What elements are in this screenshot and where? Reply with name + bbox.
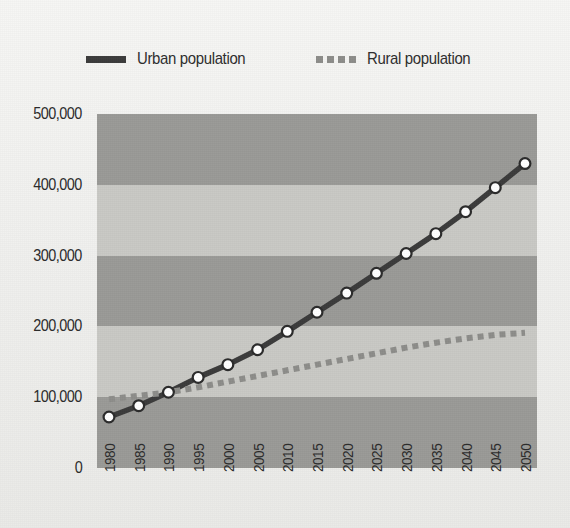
x-tick-label: 2050 [517, 444, 534, 472]
data-point-marker [460, 206, 471, 217]
y-tick-label: 500,000 [34, 105, 82, 123]
data-point-marker [282, 326, 293, 337]
x-tick-label: 2040 [457, 444, 474, 472]
y-axis: 0100,000200,000300,000400,000500,000 [0, 114, 90, 468]
legend-item-urban: Urban population [86, 49, 260, 69]
y-tick-label: 100,000 [34, 388, 82, 406]
x-tick-label: 2015 [309, 444, 326, 472]
solid-line-swatch-icon [86, 56, 126, 63]
chart-legend: Urban population Rural population [0, 42, 570, 76]
legend-item-rural: Rural population [316, 49, 484, 69]
y-tick-label: 300,000 [34, 247, 82, 265]
data-point-marker [430, 228, 441, 239]
dashed-line-swatch-icon [316, 56, 356, 63]
x-tick-label: 2035 [427, 444, 444, 472]
data-point-marker [490, 182, 501, 193]
legend-label-urban: Urban population [137, 49, 245, 69]
data-point-marker [193, 372, 204, 383]
data-point-marker [341, 288, 352, 299]
series-line-urban [109, 164, 525, 417]
x-tick-label: 2030 [398, 444, 415, 472]
plot-area [97, 114, 537, 468]
data-point-marker [520, 158, 531, 169]
chart-figure: Urban population Rural population 0100,0… [0, 0, 570, 528]
x-tick-label: 1980 [101, 444, 118, 472]
x-axis: 1980198519901995200020052010201520202025… [97, 472, 537, 524]
data-point-marker [222, 359, 233, 370]
x-tick-label: 2010 [279, 444, 296, 472]
data-point-marker [104, 412, 115, 423]
data-point-marker [371, 268, 382, 279]
y-tick-label: 400,000 [34, 176, 82, 194]
x-tick-label: 2025 [368, 444, 385, 472]
legend-label-rural: Rural population [367, 49, 470, 69]
x-tick-label: 2000 [219, 444, 236, 472]
x-tick-label: 2020 [338, 444, 355, 472]
y-tick-label: 0 [75, 459, 82, 477]
data-point-marker [401, 248, 412, 259]
y-tick-label: 200,000 [34, 317, 82, 335]
data-point-marker [252, 344, 263, 355]
plot-svg [97, 114, 537, 468]
data-point-marker [312, 307, 323, 318]
x-tick-label: 1995 [190, 444, 207, 472]
data-point-marker [133, 400, 144, 411]
x-tick-label: 1990 [160, 444, 177, 472]
data-point-marker [163, 387, 174, 398]
x-tick-label: 2045 [487, 444, 504, 472]
x-tick-label: 2005 [249, 444, 266, 472]
x-tick-label: 1985 [130, 444, 147, 472]
